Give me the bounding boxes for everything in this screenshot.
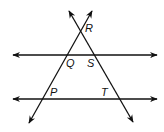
- geometry-diagram: R Q S P T: [0, 0, 164, 132]
- transversal-line-rst: [69, 11, 133, 122]
- label-p: P: [50, 86, 58, 98]
- transversal-line-prq: [29, 11, 92, 123]
- label-q: Q: [66, 57, 75, 69]
- label-s: S: [87, 57, 95, 69]
- label-t: T: [101, 86, 109, 98]
- label-r: R: [85, 22, 93, 34]
